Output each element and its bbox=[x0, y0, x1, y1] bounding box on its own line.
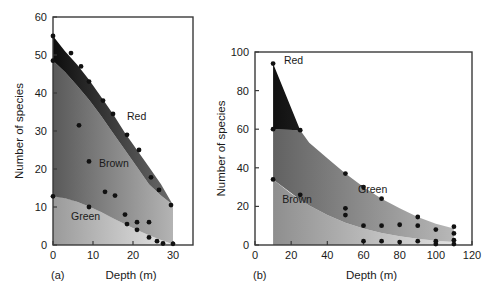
x-tick-label: 0 bbox=[50, 249, 56, 261]
data-point bbox=[149, 175, 154, 180]
x-tick-label: 120 bbox=[463, 249, 481, 261]
data-point bbox=[343, 171, 348, 176]
data-point bbox=[415, 223, 420, 228]
data-point bbox=[155, 239, 160, 244]
panel-a-plot: 01020300102030405060GreenBrownRedDepth (… bbox=[0, 0, 245, 301]
data-point bbox=[433, 227, 438, 232]
data-point bbox=[135, 220, 140, 225]
data-point bbox=[343, 206, 348, 211]
y-tick-label: 60 bbox=[237, 123, 249, 135]
data-point bbox=[171, 241, 176, 246]
series-label-brown: Brown bbox=[99, 157, 129, 169]
data-point bbox=[379, 239, 384, 244]
y-tick-label: 60 bbox=[35, 11, 47, 23]
y-tick-label: 0 bbox=[243, 239, 249, 251]
data-point bbox=[101, 98, 106, 103]
x-tick-label: 100 bbox=[427, 249, 445, 261]
data-point bbox=[397, 222, 402, 227]
data-point bbox=[271, 177, 276, 182]
data-point bbox=[147, 220, 152, 225]
data-point bbox=[361, 223, 366, 228]
data-point bbox=[452, 231, 457, 236]
data-point bbox=[87, 205, 92, 210]
y-tick-label: 20 bbox=[237, 200, 249, 212]
x-tick-label: 80 bbox=[394, 249, 406, 261]
data-point bbox=[343, 213, 348, 218]
series-label-green: Green bbox=[358, 183, 387, 195]
data-point bbox=[113, 193, 118, 198]
panel-caption: (b) bbox=[253, 269, 266, 281]
data-point bbox=[87, 79, 92, 84]
y-tick-label: 10 bbox=[35, 201, 47, 213]
series-label-brown: Brown bbox=[282, 193, 312, 205]
data-point bbox=[103, 189, 108, 194]
x-tick-label: 30 bbox=[167, 249, 179, 261]
y-axis-title: Number of species bbox=[215, 100, 227, 196]
x-axis-title: Depth (m) bbox=[346, 269, 397, 281]
data-point bbox=[452, 242, 457, 247]
data-point bbox=[379, 196, 384, 201]
data-point bbox=[147, 235, 152, 240]
data-point bbox=[87, 159, 92, 164]
data-point bbox=[51, 58, 56, 63]
figure-container: 01020300102030405060GreenBrownRedDepth (… bbox=[0, 0, 491, 301]
chart-panel-b: 020406080100120020406080100BrownGreenRed… bbox=[245, 0, 491, 301]
series-label-red: Red bbox=[284, 54, 303, 66]
data-point bbox=[379, 223, 384, 228]
data-point bbox=[123, 212, 128, 217]
data-point bbox=[137, 148, 142, 153]
y-tick-label: 20 bbox=[35, 163, 47, 175]
series-label-green: Green bbox=[71, 210, 100, 222]
panel-b-plot: 020406080100120020406080100BrownGreenRed… bbox=[245, 0, 491, 301]
data-point bbox=[79, 64, 84, 69]
y-tick-label: 30 bbox=[35, 125, 47, 137]
x-tick-label: 60 bbox=[357, 249, 369, 261]
y-tick-label: 40 bbox=[237, 162, 249, 174]
x-tick-label: 20 bbox=[127, 249, 139, 261]
x-axis-title: Depth (m) bbox=[105, 269, 156, 281]
data-point bbox=[69, 51, 74, 56]
data-point bbox=[415, 239, 420, 244]
panel-caption: (a) bbox=[51, 269, 64, 281]
series-label-red: Red bbox=[127, 110, 146, 122]
data-point bbox=[125, 132, 130, 137]
data-point bbox=[169, 203, 174, 208]
x-tick-label: 0 bbox=[252, 249, 258, 261]
data-point bbox=[433, 242, 438, 247]
data-point bbox=[111, 112, 116, 117]
x-tick-label: 20 bbox=[285, 249, 297, 261]
data-point bbox=[77, 123, 82, 128]
y-tick-label: 80 bbox=[237, 85, 249, 97]
data-point bbox=[415, 215, 420, 220]
x-tick-label: 10 bbox=[87, 249, 99, 261]
data-point bbox=[397, 240, 402, 245]
y-tick-label: 50 bbox=[35, 49, 47, 61]
y-tick-label: 40 bbox=[35, 87, 47, 99]
data-point bbox=[51, 194, 56, 199]
data-point bbox=[135, 227, 140, 232]
data-point bbox=[157, 188, 162, 193]
data-point bbox=[452, 224, 457, 229]
data-point bbox=[51, 34, 56, 39]
data-point bbox=[361, 239, 366, 244]
x-tick-label: 40 bbox=[321, 249, 333, 261]
y-tick-label: 100 bbox=[231, 46, 249, 58]
chart-panel-a: 01020300102030405060GreenBrownRedDepth (… bbox=[0, 0, 245, 301]
y-axis-title: Number of species bbox=[13, 83, 25, 179]
data-point bbox=[271, 127, 276, 132]
data-point bbox=[161, 241, 166, 246]
data-point bbox=[125, 222, 130, 227]
y-tick-label: 0 bbox=[41, 239, 47, 251]
data-point bbox=[271, 61, 276, 66]
data-point bbox=[298, 128, 303, 133]
